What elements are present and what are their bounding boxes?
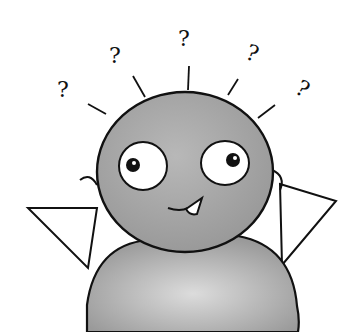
right-eye [201,141,249,185]
illustration-canvas: ? ? ? ? ? [0,0,359,332]
confused-character-drawing: ? ? ? ? ? [0,0,359,332]
question-mark-1: ? [57,77,69,102]
right-arm [272,170,336,265]
question-mark-4: ? [243,39,263,67]
left-eye [119,142,167,190]
question-mark-2: ? [109,43,121,68]
question-mark-5: ? [291,75,314,103]
question-mark-3: ? [178,26,190,51]
left-arm [28,177,97,268]
